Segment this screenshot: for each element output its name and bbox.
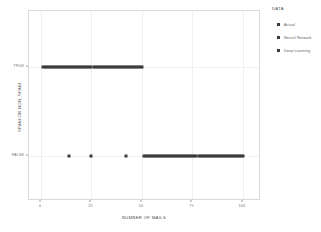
legend-items: ActualNeural NetworkDeep Learning: [272, 18, 321, 57]
x-axis-tick-mark: [191, 200, 192, 202]
y-axis-tick-mark: [26, 66, 28, 67]
gridline-vertical: [243, 11, 244, 199]
legend-item[interactable]: Deep Learning: [272, 44, 321, 57]
x-axis-tick-label: 25: [88, 204, 92, 208]
legend-title: DATA: [272, 6, 321, 11]
gridline-vertical: [142, 11, 143, 199]
data-point: [68, 155, 71, 158]
legend-item[interactable]: Neural Network: [272, 31, 321, 44]
x-axis-tick-label: 50: [139, 204, 143, 208]
data-point: [140, 66, 143, 69]
legend-item-label: Deep Learning: [284, 49, 310, 53]
x-axis-tick-mark: [40, 200, 41, 202]
legend-marker-square-icon: [277, 23, 280, 26]
data-point: [241, 155, 244, 158]
data-point: [90, 155, 93, 158]
legend-item-label: Neural Network: [284, 36, 312, 40]
x-axis-tick-mark: [140, 200, 141, 202]
plot-panel: [28, 10, 260, 200]
gridline-vertical: [41, 11, 42, 199]
x-axis-tick-mark: [90, 200, 91, 202]
legend: DATA ActualNeural NetworkDeep Learning: [272, 6, 321, 57]
legend-marker-square-icon: [277, 49, 280, 52]
x-axis-tick-label: 75: [189, 204, 193, 208]
x-axis-title: NUMBER OF MAILS: [28, 215, 260, 220]
y-axis-title: SPAM OR NON_SPAM: [17, 53, 22, 163]
data-point: [124, 155, 127, 158]
x-axis-tick-mark: [241, 200, 242, 202]
x-axis-tick-label: 100: [239, 204, 246, 208]
legend-marker-square-icon: [277, 36, 280, 39]
y-axis-tick-mark: [26, 155, 28, 156]
legend-item-label: Actual: [284, 23, 295, 27]
legend-item[interactable]: Actual: [272, 18, 321, 31]
gridline-vertical: [192, 11, 193, 199]
gridline-vertical: [91, 11, 92, 199]
chart-root: TRUEFALSE SPAM OR NON_SPAM 0255075100 NU…: [0, 0, 321, 232]
x-axis-tick-label: 0: [39, 204, 41, 208]
